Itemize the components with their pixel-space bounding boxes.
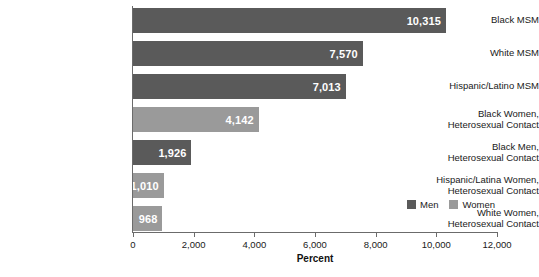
x-axis-title-text: Percent (297, 253, 334, 264)
x-axis-tick-label: 8,000 (364, 239, 388, 250)
bar-value-label: 7,570 (330, 48, 358, 60)
legend-item-men: Men (407, 199, 438, 210)
bar-value-label: 10,315 (407, 15, 441, 27)
legend: Men Women (407, 199, 495, 210)
x-axis-tick-label: 6,000 (303, 239, 327, 250)
category-label-line: Black Men, (492, 142, 539, 153)
x-axis-tick (315, 233, 316, 237)
bar-chart: Black MSM White MSM Hispanic/Latino MSM … (0, 0, 539, 277)
x-axis-title: Percent (0, 253, 539, 264)
legend-swatch-icon (407, 200, 416, 209)
x-axis-tick-label: 2,000 (182, 239, 206, 250)
x-axis-tick-label: 10,000 (422, 239, 451, 250)
legend-label: Men (420, 199, 438, 210)
x-axis-tick (133, 233, 134, 237)
bar: 1,010 (133, 173, 164, 198)
category-label-line: White MSM (490, 48, 539, 59)
bar: 7,570 (133, 41, 363, 66)
bar: 10,315 (133, 8, 446, 33)
x-axis-tick (376, 233, 377, 237)
x-axis-tick-label: 0 (130, 239, 135, 250)
legend-item-women: Women (449, 199, 495, 210)
bar-value-label: 1,010 (131, 180, 159, 192)
x-axis-tick (497, 233, 498, 237)
bar: 7,013 (133, 74, 346, 99)
bar: 4,142 (133, 107, 259, 132)
x-axis-tick (254, 233, 255, 237)
x-axis-tick-label: 12,000 (482, 239, 511, 250)
bar-value-label: 968 (139, 213, 158, 225)
x-axis-tick (194, 233, 195, 237)
x-axis-tick (436, 233, 437, 237)
bar: 1,926 (133, 140, 191, 165)
category-label-line: Black MSM (491, 15, 539, 26)
bar-value-label: 4,142 (226, 114, 254, 126)
legend-label: Women (462, 199, 495, 210)
bar: 968 (133, 206, 162, 231)
plot-area: 10,315 7,570 7,013 4,142 1,926 1,010 968 (133, 0, 497, 232)
legend-swatch-icon (449, 200, 458, 209)
bar-value-label: 7,013 (313, 81, 341, 93)
bar-value-label: 1,926 (158, 147, 186, 159)
x-axis-tick-label: 4,000 (242, 239, 266, 250)
y-axis-line (132, 6, 133, 232)
